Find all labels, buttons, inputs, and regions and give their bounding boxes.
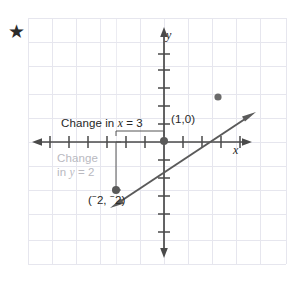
change-in-y-label: Changein y = 2 [57, 152, 98, 179]
y-axis-arrow-down [160, 248, 168, 258]
coordinate-plane-svg [0, 0, 304, 281]
p2-close: 2) [115, 194, 125, 206]
point-1-0 [160, 137, 168, 145]
point-label-neg2-neg2: (−2, −2) [88, 192, 125, 206]
x-axis-arrow-right [242, 138, 252, 146]
p2-mid: 2, [97, 194, 110, 206]
point-label-1-0: (1,0) [171, 113, 195, 125]
x-axis-arrow-left [32, 138, 42, 146]
change-in-x-eq: = 3 [123, 117, 143, 129]
change-in-x-label: Change in x = 3 [61, 117, 143, 129]
point-marker-upper [214, 93, 221, 100]
x-axis-label: x [233, 143, 238, 158]
axes [32, 27, 252, 258]
change-in-y-line2-prefix: in [57, 166, 69, 178]
change-in-x-prefix: Change in [61, 117, 118, 129]
change-in-y-line1: Change [57, 152, 98, 164]
change-in-y-line2-suffix: = 2 [75, 166, 95, 178]
graph-figure: ★ [0, 0, 304, 281]
y-axis-label: y [166, 28, 171, 43]
